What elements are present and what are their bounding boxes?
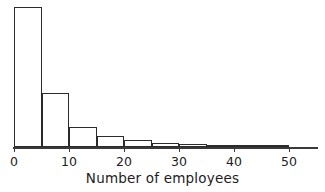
histogram-figure: 01020304050 Number of employees (0, 0, 325, 192)
histogram-bar (97, 136, 125, 147)
x-axis-tick-label: 40 (226, 155, 242, 168)
x-axis-tick (234, 147, 235, 152)
x-axis-tick (69, 147, 70, 152)
plot-area: 01020304050 Number of employees (0, 0, 325, 192)
histogram-bar (69, 127, 97, 147)
x-axis-tick-label: 50 (281, 155, 297, 168)
x-axis-label: Number of employees (0, 170, 325, 186)
x-axis-tick (14, 147, 15, 152)
x-axis-tick-label: 20 (116, 155, 132, 168)
x-axis-tick (124, 147, 125, 152)
histogram-bar (124, 140, 152, 147)
x-axis-line (13, 147, 318, 149)
x-axis-tick-label: 30 (171, 155, 187, 168)
x-axis-tick (289, 147, 290, 152)
x-axis-tick-label: 10 (61, 155, 77, 168)
histogram-bar (14, 7, 42, 147)
histogram-bar (42, 93, 70, 147)
x-axis-tick (179, 147, 180, 152)
x-axis-tick-label: 0 (10, 155, 18, 168)
